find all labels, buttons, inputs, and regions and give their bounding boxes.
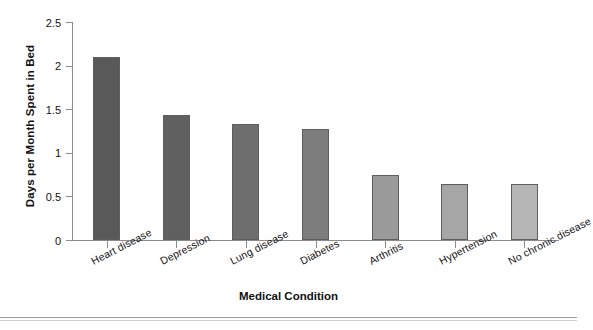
bar: [511, 184, 538, 240]
x-tick-label: Diabetes: [298, 237, 341, 267]
y-axis-line: [72, 22, 73, 240]
y-tick-mark: 2: [66, 66, 72, 67]
y-tick-mark: 0: [66, 240, 72, 241]
plot-area: 00.511.522.5: [72, 22, 559, 240]
y-tick-mark: 0.5: [66, 196, 72, 197]
y-tick-label: 1.5: [46, 104, 61, 116]
y-tick-mark: 1.5: [66, 109, 72, 110]
bar: [163, 115, 190, 240]
y-tick-mark: 1: [66, 153, 72, 154]
y-tick-label: 2.5: [46, 17, 61, 29]
footer-divider: [0, 317, 577, 318]
bar: [93, 57, 120, 240]
bar: [372, 175, 399, 240]
y-axis-title: Days per Month Spent in Bed: [24, 11, 36, 241]
x-axis-title: Medical Condition: [0, 290, 577, 302]
y-tick-mark: 2.5: [66, 22, 72, 23]
bar: [302, 129, 329, 240]
y-tick-label: 0: [55, 235, 61, 247]
y-tick-label: 0.5: [46, 191, 61, 203]
y-tick-label: 2: [55, 60, 61, 72]
bar: [232, 124, 259, 240]
bar: [441, 184, 468, 240]
y-tick-label: 1: [55, 147, 61, 159]
footer-divider-secondary: [0, 320, 577, 321]
